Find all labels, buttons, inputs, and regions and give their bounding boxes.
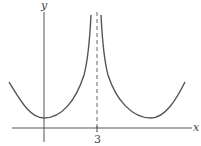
right-branch-curve bbox=[101, 15, 185, 118]
x-axis-label: x bbox=[193, 121, 200, 134]
function-graph: y x 3 bbox=[0, 0, 201, 146]
graph-figure: y x 3 bbox=[0, 0, 201, 146]
y-axis-label: y bbox=[40, 0, 48, 12]
x-tick-label-3: 3 bbox=[94, 133, 101, 146]
left-branch-curve bbox=[9, 15, 91, 118]
